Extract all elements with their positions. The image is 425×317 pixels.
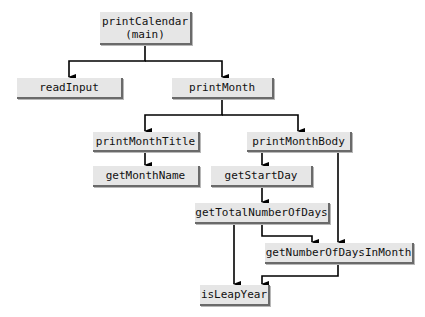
node-printCalendar: printCalendar (main) [100, 12, 192, 45]
node-printMonth: printMonth [172, 78, 274, 99]
node-getMonthName: getMonthName [93, 166, 200, 187]
edge-getTotalNumberOfDays-getNumberOfDaysInMonth [262, 223, 312, 242]
node-printMonthTitle: printMonthTitle [93, 132, 200, 152]
node-readInput: readInput [17, 78, 123, 99]
node-getStartDay: getStartDay [211, 166, 313, 187]
edge-printMonth-printMonthBody [222, 115, 298, 131]
node-printMonthBody: printMonthBody [247, 132, 352, 152]
edge-printCalendar-printMonth [145, 61, 222, 77]
edge-printCalendar-readInput [69, 44, 145, 77]
edge-getNumberOfDaysInMonth-isLeapYear [262, 263, 338, 284]
edges-layer [0, 0, 425, 317]
node-getNumberOfDaysInMonth: getNumberOfDaysInMonth [265, 243, 414, 264]
edge-printMonth-printMonthTitle [145, 98, 222, 131]
call-hierarchy-diagram: printCalendar (main) readInput printMont… [0, 0, 425, 317]
node-getTotalNumberOfDays: getTotalNumberOfDays [195, 203, 330, 224]
node-isLeapYear: isLeapYear [200, 285, 270, 306]
